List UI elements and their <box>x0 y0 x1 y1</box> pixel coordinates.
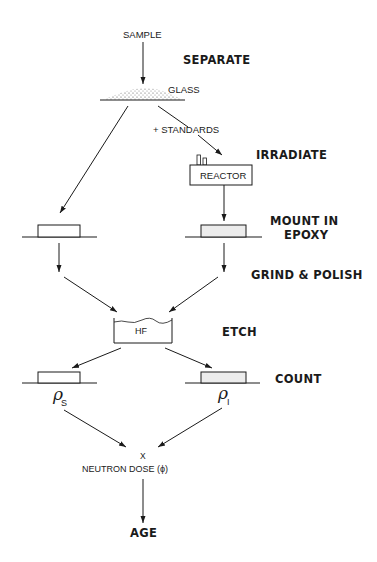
reactor-chimney-1 <box>197 155 201 165</box>
count-left-sample <box>38 372 80 383</box>
mount-right-sample <box>201 225 246 237</box>
age-label: AGE <box>130 526 157 540</box>
arrow-left-to-hf <box>64 277 117 312</box>
arrow-hf-to-right-count <box>165 348 212 368</box>
rho-i-subscript: I <box>227 397 230 407</box>
step-separate: SEPARATE <box>183 53 250 67</box>
arrow-standards-to-reactor <box>198 135 222 155</box>
mount-left-sample <box>38 225 80 237</box>
fission-track-diagram: SAMPLE SEPARATE GLASS + STANDARDS IRRADI… <box>0 0 377 562</box>
arrow-right-to-hf <box>169 277 218 312</box>
rho-s-subscript: S <box>61 398 67 408</box>
arrow-hf-to-left-count <box>72 348 121 368</box>
sample-label: SAMPLE <box>123 29 162 40</box>
step-irradiate: IRRADIATE <box>256 148 327 162</box>
reactor-label: REACTOR <box>200 170 246 181</box>
step-etch: ETCH <box>222 325 257 339</box>
hf-liquid-surface <box>114 318 172 323</box>
standards-label: + STANDARDS <box>153 124 219 135</box>
hf-label: HF <box>135 326 147 336</box>
neutron-dose-label: NEUTRON DOSE (ϕ) <box>82 464 168 474</box>
count-right-sample <box>201 372 246 383</box>
step-mount-line2: EPOXY <box>284 228 328 242</box>
arrow-glass-to-left-mount <box>60 106 128 213</box>
arrow-rhoi-to-dose <box>158 408 222 447</box>
glass-label: GLASS <box>168 84 200 95</box>
step-grind-polish: GRIND & POLISH <box>251 268 363 282</box>
step-count: COUNT <box>275 372 322 386</box>
reactor-chimney-2 <box>203 158 207 165</box>
multiply-sign: X <box>140 451 146 461</box>
arrow-rhos-to-dose <box>64 410 126 447</box>
step-mount-line1: MOUNT IN <box>270 214 338 228</box>
